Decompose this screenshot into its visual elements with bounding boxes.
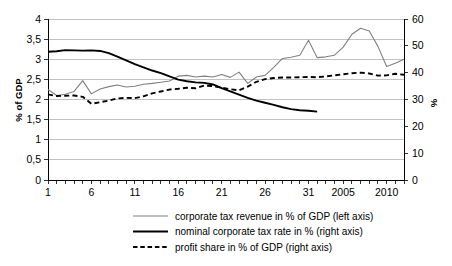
- legend-label-0: corporate tax revenue in % of GDP (left …: [175, 211, 373, 222]
- x-axis-tick-label: 6: [88, 186, 94, 198]
- chart-svg: 00,511,522,533,54 0102030405060 16111621…: [0, 0, 452, 266]
- legend-label-2: profit share in % of GDP (right axis): [175, 242, 332, 253]
- x-axis-tick-label: 26: [259, 186, 271, 198]
- left-axis-tick-label: 3: [35, 53, 41, 65]
- x-axis-tick-label: 31: [303, 186, 315, 198]
- x-axis-tick-label: 1: [45, 186, 51, 198]
- x-axis-tick-label: 21: [216, 186, 228, 198]
- data-series-group: [48, 28, 404, 111]
- left-axis-tick-label: 4: [35, 13, 41, 25]
- right-axis-tick-label: 20: [412, 120, 424, 132]
- left-axis-tick-labels: 00,511,522,533,54: [26, 13, 41, 186]
- right-axis-tick-label: 50: [412, 39, 424, 51]
- x-axis-tick-label: 2005: [332, 186, 356, 198]
- left-axis-title: % of GDP: [13, 78, 24, 122]
- x-axis-tick-label: 2010: [375, 186, 399, 198]
- left-axis-tick-label: 0: [35, 174, 41, 186]
- legend-label-1: nominal corporate tax rate in % (right a…: [175, 226, 363, 237]
- left-axis-tick-label: 2: [35, 93, 41, 105]
- x-axis-tick-label: 16: [172, 186, 184, 198]
- right-axis-tick-label: 60: [412, 13, 424, 25]
- left-axis-tick-label: 0,5: [26, 153, 41, 165]
- left-axis-tick-label: 3,5: [26, 33, 41, 45]
- left-axis-tick-label: 2,5: [26, 73, 41, 85]
- right-axis-tick-label: 30: [412, 93, 424, 105]
- right-axis-tick-label: 40: [412, 66, 424, 78]
- series-line-0: [48, 28, 404, 95]
- right-axis-tick-label: 0: [412, 174, 418, 186]
- left-axis-tick-label: 1: [35, 133, 41, 145]
- left-axis-tick-label: 1,5: [26, 113, 41, 125]
- right-axis-tick-labels: 0102030405060: [412, 13, 424, 186]
- right-axis-tick-label: 10: [412, 147, 424, 159]
- right-axis-title: %: [428, 98, 439, 107]
- chart-figure: 00,511,522,533,54 0102030405060 16111621…: [0, 0, 452, 266]
- x-axis-tick-label: 11: [129, 186, 140, 198]
- x-axis-tick-labels: 16111621263120052010: [45, 186, 398, 198]
- chart-legend: corporate tax revenue in % of GDP (left …: [133, 211, 373, 253]
